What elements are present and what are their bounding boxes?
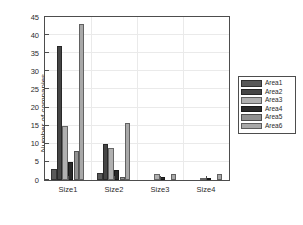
- y-tick-mark: [45, 16, 49, 17]
- plot-area: 051015202530354045 Size1Size2Size3Size4: [44, 16, 230, 181]
- legend-item-area2[interactable]: Area2: [241, 88, 293, 96]
- y-tick-label: 5: [35, 158, 39, 166]
- y-tick-mark: [45, 52, 49, 53]
- legend-item-area6[interactable]: Area6: [241, 122, 293, 130]
- bar-size2-area2: [103, 144, 108, 180]
- y-tick-mark: [45, 34, 49, 35]
- legend-swatch-area1: [241, 80, 262, 87]
- legend-label-area3: Area3: [265, 97, 282, 104]
- figure-canvas: Number of companies 051015202530354045 S…: [0, 0, 303, 225]
- bar-size3-area3: [154, 174, 159, 180]
- legend-item-area5[interactable]: Area5: [241, 114, 293, 122]
- y-tick-label: 45: [31, 13, 39, 21]
- gridline-vertical: [183, 17, 184, 180]
- x-tick-label-size1: Size1: [59, 186, 78, 194]
- legend-label-area4: Area4: [265, 106, 282, 113]
- y-tick-label: 15: [31, 122, 39, 130]
- x-tick-mark: [206, 176, 207, 180]
- legend-swatch-area6: [241, 123, 262, 130]
- legend-swatch-area3: [241, 97, 262, 104]
- legend-item-area3[interactable]: Area3: [241, 97, 293, 105]
- legend-label-area1: Area1: [265, 80, 282, 87]
- y-tick-mark: [45, 179, 49, 180]
- bar-size1-area5: [74, 151, 79, 180]
- bar-size1-area1: [51, 169, 56, 180]
- y-tick-label: 10: [31, 140, 39, 148]
- bar-size1-area3: [62, 126, 67, 180]
- y-tick-label: 25: [31, 86, 39, 94]
- y-tick-mark: [45, 107, 49, 108]
- legend-item-area1[interactable]: Area1: [241, 80, 293, 88]
- bar-size2-area3: [108, 148, 113, 180]
- x-tick-mark: [114, 176, 115, 180]
- x-tick-mark: [68, 176, 69, 180]
- gridline-vertical: [137, 17, 138, 180]
- bar-size3-area6: [171, 174, 176, 180]
- y-tick-mark: [45, 125, 49, 126]
- y-tick-label: 30: [31, 68, 39, 76]
- legend-swatch-area4: [241, 106, 262, 113]
- y-tick-mark: [45, 143, 49, 144]
- bar-size2-area5: [120, 177, 125, 180]
- bar-size2-area1: [97, 173, 102, 180]
- legend-item-area4[interactable]: Area4: [241, 105, 293, 113]
- bar-size1-area6: [79, 24, 84, 180]
- y-tick-label: 20: [31, 104, 39, 112]
- legend-swatch-area2: [241, 89, 262, 96]
- gridline-vertical: [91, 17, 92, 180]
- legend-label-area5: Area5: [265, 114, 282, 121]
- y-tick-label: 0: [35, 176, 39, 184]
- legend-label-area6: Area6: [265, 123, 282, 130]
- legend-swatch-area5: [241, 114, 262, 121]
- y-tick-label: 40: [31, 31, 39, 39]
- y-tick-mark: [45, 70, 49, 71]
- y-tick-mark: [45, 161, 49, 162]
- x-tick-label-size3: Size3: [151, 186, 170, 194]
- chart-legend: Area1Area2Area3Area4Area5Area6: [238, 76, 296, 134]
- x-tick-label-size2: Size2: [105, 186, 124, 194]
- x-tick-mark: [160, 176, 161, 180]
- y-tick-mark: [45, 88, 49, 89]
- y-tick-label: 35: [31, 49, 39, 57]
- bar-size4-area3: [200, 178, 205, 180]
- bar-size4-area6: [217, 174, 222, 180]
- bar-size2-area6: [125, 123, 130, 180]
- legend-label-area2: Area2: [265, 89, 282, 96]
- x-tick-label-size4: Size4: [197, 186, 216, 194]
- bar-size1-area2: [57, 46, 62, 180]
